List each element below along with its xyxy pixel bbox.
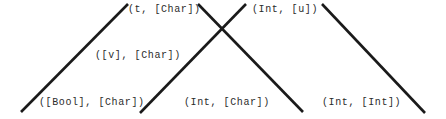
edge-mid-falling bbox=[198, 4, 303, 112]
type-unification-diagram: (t, [Char]) (Int, [u]) ([v], [Char]) ([B… bbox=[0, 0, 446, 119]
node-label-int-char: (Int, [Char]) bbox=[184, 97, 270, 109]
node-label-int-int: (Int, [Int]) bbox=[322, 97, 401, 109]
node-label-bool-char: ([Bool], [Char]) bbox=[39, 97, 145, 109]
node-label-v-char: ([v], [Char]) bbox=[95, 50, 181, 62]
node-label-int-u: (Int, [u]) bbox=[252, 4, 318, 16]
node-label-t-char: (t, [Char]) bbox=[128, 4, 201, 16]
